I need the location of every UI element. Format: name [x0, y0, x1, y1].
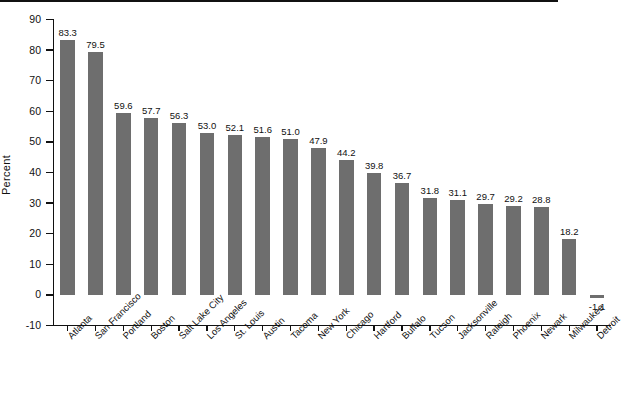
bar — [506, 206, 520, 295]
bar — [144, 118, 158, 295]
bar-value-label: 28.8 — [522, 195, 561, 205]
bar — [88, 52, 102, 295]
y-tick-mark — [46, 172, 53, 173]
bar — [450, 200, 464, 295]
bar-value-label: 56.3 — [160, 111, 199, 121]
y-tick-mark — [46, 202, 53, 203]
x-category-label: Tucson — [428, 312, 457, 341]
bar — [534, 207, 548, 295]
bar — [60, 40, 74, 295]
bar-value-label: 39.8 — [355, 161, 394, 171]
zero-baseline — [0, 0, 558, 2]
bar — [367, 173, 381, 295]
y-tick-label: 20 — [1, 228, 41, 239]
y-tick-mark — [46, 264, 53, 265]
bar-value-label: 44.2 — [327, 148, 366, 158]
x-category-label: Detroit — [595, 314, 622, 341]
x-category-label: Buffalo — [400, 313, 428, 341]
bar — [478, 204, 492, 295]
y-tick-mark — [46, 141, 53, 142]
y-tick-mark — [46, 19, 53, 20]
bar-value-label: 18.2 — [550, 227, 589, 237]
bar — [423, 198, 437, 295]
bar — [255, 137, 269, 295]
bar — [562, 239, 576, 295]
x-category-label: Atlanta — [66, 313, 94, 341]
y-tick-mark — [46, 80, 53, 81]
y-tick-mark — [46, 294, 53, 295]
y-tick-mark — [46, 111, 53, 112]
bar — [590, 295, 604, 298]
x-category-label: Boston — [149, 313, 177, 341]
bar — [311, 148, 325, 295]
y-tick-label: 90 — [1, 14, 41, 25]
bar — [228, 135, 242, 294]
y-tick-label: 50 — [1, 136, 41, 147]
y-tick-label: 10 — [1, 259, 41, 270]
y-tick-label: 0 — [1, 289, 41, 300]
y-tick-mark — [46, 325, 53, 326]
y-axis-line — [53, 19, 54, 326]
y-tick-mark — [46, 233, 53, 234]
y-tick-mark — [46, 49, 53, 50]
bar — [339, 160, 353, 295]
bar — [283, 139, 297, 295]
y-tick-label: 30 — [1, 198, 41, 209]
y-tick-label: 80 — [1, 45, 41, 56]
y-tick-label: 70 — [1, 75, 41, 86]
bar-value-label: 36.7 — [383, 171, 422, 181]
bar — [172, 123, 186, 295]
y-tick-label: -10 — [1, 320, 41, 331]
bar-value-label: 83.3 — [48, 28, 87, 38]
bar-value-label: 51.0 — [271, 127, 310, 137]
y-tick-label: 60 — [1, 106, 41, 117]
bar-value-label: 47.9 — [299, 136, 338, 146]
bar-value-label: 79.5 — [76, 40, 115, 50]
bar — [395, 183, 409, 295]
bar — [200, 133, 214, 295]
x-category-label: Austin — [261, 315, 286, 340]
bar — [116, 113, 130, 295]
y-tick-label: 40 — [1, 167, 41, 178]
